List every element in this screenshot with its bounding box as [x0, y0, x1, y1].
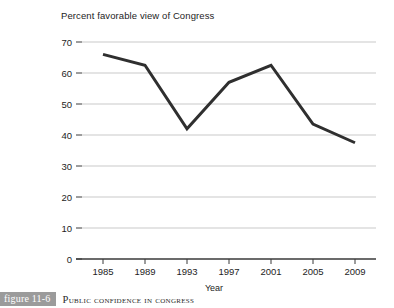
gridlines [76, 42, 376, 259]
svg-text:40: 40 [61, 130, 72, 141]
svg-text:1985: 1985 [92, 266, 113, 277]
svg-text:2001: 2001 [260, 266, 281, 277]
figure-number-badge: figure 11-6 [0, 292, 56, 306]
svg-text:2009: 2009 [344, 266, 365, 277]
svg-text:30: 30 [61, 161, 72, 172]
svg-text:60: 60 [61, 68, 72, 79]
svg-text:20: 20 [61, 192, 72, 203]
figure-caption-text: Public Confidence in Congress [63, 294, 195, 305]
svg-text:2005: 2005 [302, 266, 323, 277]
svg-text:1997: 1997 [218, 266, 239, 277]
figure-caption-bar: figure 11-6 Public Confidence in Congres… [0, 290, 394, 308]
line-chart-plot: 010203040506070 198519891993199720012005… [0, 0, 394, 290]
figure-container: Percent favorable view of Congress 01020… [0, 0, 394, 308]
svg-text:1993: 1993 [176, 266, 197, 277]
svg-text:70: 70 [61, 37, 72, 48]
y-axis-tick-labels: 010203040506070 [61, 37, 72, 265]
svg-text:1989: 1989 [134, 266, 155, 277]
svg-text:10: 10 [61, 223, 72, 234]
x-axis-tick-labels: 1985198919931997200120052009 [92, 259, 365, 277]
data-series-line [103, 54, 355, 142]
svg-text:50: 50 [61, 99, 72, 110]
svg-text:0: 0 [67, 254, 72, 265]
